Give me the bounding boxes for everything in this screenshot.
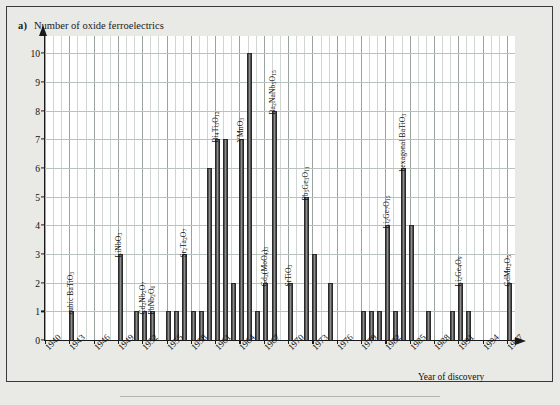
bar xyxy=(142,311,147,340)
plot-area: cubic BaTiO3LiNbO3Cd2Nb2O7PbNb2O6Sr2Ta2O… xyxy=(44,36,515,341)
bar xyxy=(361,311,366,340)
grid-line-horizontal xyxy=(45,311,515,312)
bar-annotation-label: cubic BaTiO3 xyxy=(67,272,75,315)
bar-annotation-label: Sr2Ta2O7 xyxy=(180,229,188,258)
grid-line-horizontal xyxy=(45,139,515,140)
y-tick-mark xyxy=(41,311,45,312)
y-tick-label: 7 xyxy=(35,134,40,145)
bar xyxy=(304,197,309,340)
grid-line-horizontal xyxy=(45,111,515,112)
bar xyxy=(239,139,244,340)
y-tick-mark xyxy=(41,81,45,82)
bar-annotation-label: LiNbO3 xyxy=(116,233,124,258)
y-tick-label: 1 xyxy=(35,306,40,317)
grid-line-horizontal xyxy=(45,82,515,83)
y-tick-label: 10 xyxy=(30,48,40,59)
grid-line-horizontal xyxy=(45,283,515,284)
y-tick-mark xyxy=(41,282,45,283)
bar-annotation-label: Pb5Ge3O11 xyxy=(302,166,310,200)
grid-line-horizontal xyxy=(45,197,515,198)
y-tick-mark xyxy=(41,196,45,197)
bar xyxy=(377,311,382,340)
bar xyxy=(166,311,171,340)
bar-annotation-label: PbNb2O6 xyxy=(148,286,156,315)
bar-annotation-label: YMnO3 xyxy=(237,118,245,143)
x-axis-title: Year of discovery xyxy=(418,372,484,382)
y-tick-mark xyxy=(41,225,45,226)
bottom-rule xyxy=(120,396,440,397)
bar-annotation-label: Cd2Nb2O7 xyxy=(140,282,148,315)
bar xyxy=(191,311,196,340)
y-axis-title: Number of oxide ferroelectrics xyxy=(34,20,164,31)
bar xyxy=(288,283,293,340)
y-tick-mark xyxy=(41,53,45,54)
bar xyxy=(450,311,455,340)
bar-annotation-label: SrTiO3 xyxy=(286,264,294,286)
bar xyxy=(507,283,512,340)
y-tick-label: 6 xyxy=(35,162,40,173)
bar-annotation-label: Li2Ge7O15 xyxy=(383,196,391,229)
bar xyxy=(426,311,431,340)
grid-line-horizontal xyxy=(45,168,515,169)
bar-annotation-label: Gd2(MoO4)3 xyxy=(261,246,269,286)
bar xyxy=(409,225,414,340)
grid-line-horizontal xyxy=(45,225,515,226)
bar xyxy=(263,283,268,340)
y-axis-arrow-icon xyxy=(39,25,47,36)
y-tick-label: 2 xyxy=(35,277,40,288)
y-tick-label: 9 xyxy=(35,76,40,87)
bar xyxy=(401,168,406,340)
bar-annotation-label: Ba2NaNb5O15 xyxy=(270,70,278,114)
bar-annotation-label: Li2Ge4O9 xyxy=(456,256,464,286)
y-tick-label: 0 xyxy=(35,335,40,346)
bar xyxy=(255,311,260,340)
grid-line-horizontal xyxy=(45,53,515,54)
y-tick-label: 4 xyxy=(35,220,40,231)
bar-annotation-label: GdMn2O5 xyxy=(505,255,513,287)
y-tick-mark xyxy=(41,167,45,168)
plot-inner: cubic BaTiO3LiNbO3Cd2Nb2O7PbNb2O6Sr2Ta2O… xyxy=(45,36,515,340)
bar xyxy=(207,168,212,340)
bar xyxy=(328,283,333,340)
y-tick-label: 5 xyxy=(35,191,40,202)
y-tick-mark xyxy=(41,110,45,111)
y-tick-label: 8 xyxy=(35,105,40,116)
bar xyxy=(458,283,463,340)
bar xyxy=(385,225,390,340)
y-tick-label: 3 xyxy=(35,248,40,259)
bar xyxy=(312,254,317,340)
y-tick-mark xyxy=(41,139,45,140)
bar xyxy=(272,111,277,340)
y-tick-mark xyxy=(41,253,45,254)
bar xyxy=(118,254,123,340)
bar xyxy=(69,311,74,340)
bar xyxy=(182,254,187,340)
figure-page: a) Number of oxide ferroelectrics cubic … xyxy=(0,0,560,405)
bar-annotation-label: hexagonal BaTiO3 xyxy=(399,114,407,172)
bar xyxy=(134,311,139,340)
bar xyxy=(231,283,236,340)
bar xyxy=(215,139,220,340)
bar-annotation-label: Bi4Ti3O12 xyxy=(213,112,221,143)
panel-label: a) xyxy=(18,20,27,31)
bar xyxy=(247,53,252,340)
bar xyxy=(223,139,228,340)
